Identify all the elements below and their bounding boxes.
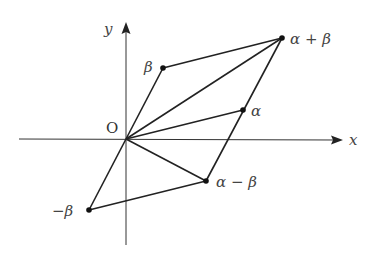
y-axis-label: y (103, 20, 113, 38)
label-beta: β (143, 58, 153, 76)
label-neg-beta: −β (52, 202, 74, 220)
segment-beta-alphaplusbeta (163, 38, 282, 68)
segment-o-alpha (126, 110, 243, 139)
point-alpha (240, 107, 246, 113)
segment-o-negbeta (89, 139, 126, 210)
origin-label: O (106, 119, 118, 137)
segment-o-beta (126, 68, 163, 139)
label-alpha-plus-beta: α + β (290, 30, 331, 48)
point-alpha-minus-beta (203, 178, 209, 184)
label-alpha-minus-beta: α − β (216, 173, 257, 191)
point-alpha-plus-beta (279, 35, 285, 41)
segment-negbeta-alphaminusbeta (89, 181, 206, 210)
point-beta (160, 65, 166, 71)
x-axis-label: x (349, 131, 358, 149)
x-axis (19, 139, 336, 140)
label-alpha: α (251, 102, 261, 120)
segment-o-alphaminusbeta (126, 139, 206, 181)
vector-diagram: y x O α β α + β α − β −β (0, 0, 374, 271)
segment-o-alphaplusbeta (126, 38, 282, 139)
point-neg-beta (86, 207, 92, 213)
